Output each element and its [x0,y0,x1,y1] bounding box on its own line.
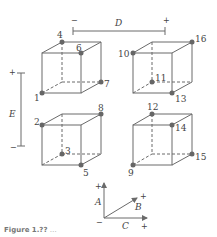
svg-text:−: − [10,143,17,152]
e-axis: + − E [8,68,25,152]
vertex-12 [150,112,155,117]
caption-text: … [50,226,57,234]
svg-text:3: 3 [65,146,71,156]
vertex-4 [60,40,65,45]
vertex-16 [190,40,195,45]
vertex-1 [40,91,45,96]
vertex-9 [131,163,136,168]
abc-legend: + A + B − C + [94,182,148,231]
svg-text:8: 8 [98,103,104,113]
cube-top-right: 10 11 13 16 [118,34,207,104]
svg-text:B: B [134,202,142,212]
svg-text:16: 16 [195,34,207,44]
vertex-14 [170,123,175,128]
svg-text:4: 4 [57,30,63,40]
svg-text:A: A [94,197,102,207]
svg-text:+: + [163,16,170,25]
svg-text:+: + [9,68,16,77]
svg-text:12: 12 [147,102,158,112]
vertex-15 [190,152,195,157]
svg-text:+: + [140,192,147,201]
figure-caption: Figure 1.?? … [4,226,214,234]
vertex-11 [150,80,155,85]
d-axis: − + D [71,16,170,35]
svg-text:7: 7 [104,79,110,89]
svg-text:13: 13 [175,94,187,104]
svg-text:E: E [8,109,16,119]
caption-prefix: Figure 1.?? [4,226,47,234]
vertex-7 [99,80,104,85]
svg-text:D: D [114,18,122,28]
svg-text:5: 5 [83,168,89,178]
svg-text:14: 14 [175,123,187,133]
svg-text:9: 9 [128,168,134,178]
vertex-10 [131,51,136,56]
vertex-13 [170,91,175,96]
vertex-5 [79,163,84,168]
vertex-3 [60,152,65,157]
svg-text:−: − [71,16,78,25]
svg-text:15: 15 [195,152,207,162]
svg-text:+: + [95,182,102,191]
svg-text:1: 1 [34,93,40,103]
svg-text:11: 11 [155,73,166,83]
cube-diagram: − + D + − E 1 4 6 7 [0,0,217,237]
svg-text:6: 6 [76,43,82,53]
cube-bottom-right: 9 12 14 15 [128,102,207,178]
cube-top-left: 1 4 6 7 [34,30,110,103]
cube-bottom-left: 2 3 5 8 [34,103,104,178]
vertex-2 [40,123,45,128]
svg-text:10: 10 [118,49,130,59]
svg-text:2: 2 [34,117,40,127]
